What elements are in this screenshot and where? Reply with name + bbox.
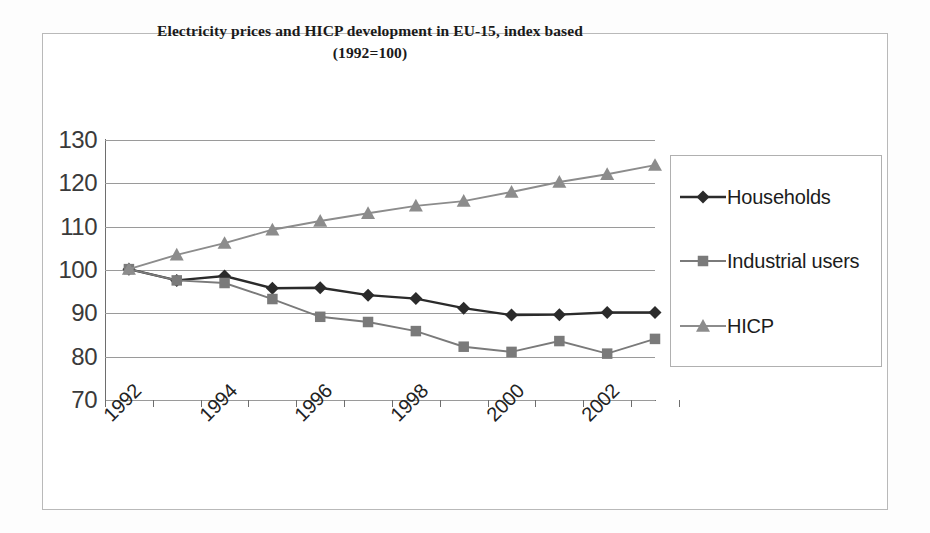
gridline bbox=[105, 400, 655, 401]
legend-item-hicp[interactable]: HICP bbox=[679, 311, 774, 341]
square-marker-icon bbox=[315, 312, 326, 323]
square-marker-icon bbox=[554, 336, 565, 347]
x-tick bbox=[248, 400, 249, 407]
diamond-marker-icon bbox=[697, 191, 710, 204]
diamond-marker-icon bbox=[457, 302, 470, 315]
chart-title-line-1: Electricity prices and HICP development … bbox=[157, 22, 583, 39]
x-tick bbox=[631, 400, 632, 407]
series-line bbox=[129, 269, 655, 315]
y-tick-label: 110 bbox=[37, 213, 97, 241]
series-line bbox=[129, 269, 655, 354]
square-marker-icon bbox=[650, 334, 661, 345]
chart-title: Electricity prices and HICP development … bbox=[60, 20, 680, 64]
y-tick-label: 90 bbox=[37, 299, 97, 327]
legend-item-industrial-users[interactable]: Industrial users bbox=[679, 246, 859, 276]
square-marker-icon bbox=[411, 326, 422, 337]
square-marker-icon bbox=[267, 294, 278, 305]
chart-legend: Households Industrial users HICP bbox=[670, 155, 882, 367]
square-marker-icon bbox=[698, 256, 709, 267]
diamond-marker-icon bbox=[553, 308, 566, 321]
x-tick bbox=[344, 400, 345, 407]
chart-title-line-2: (1992=100) bbox=[60, 42, 680, 64]
series-layer bbox=[105, 140, 655, 400]
diamond-marker-icon bbox=[601, 306, 614, 319]
diamond-marker-icon bbox=[266, 282, 279, 295]
square-marker-icon bbox=[602, 348, 613, 359]
x-tick bbox=[440, 400, 441, 407]
y-tick-label: 70 bbox=[37, 386, 97, 414]
y-axis-labels: 130120110100908070 bbox=[35, 0, 97, 533]
square-marker-icon bbox=[171, 275, 182, 286]
diamond-marker-icon bbox=[409, 292, 422, 305]
y-tick-label: 130 bbox=[37, 126, 97, 154]
y-tick-label: 80 bbox=[37, 343, 97, 371]
legend-label: Industrial users bbox=[727, 250, 859, 273]
diamond-marker-icon bbox=[314, 281, 327, 294]
diamond-marker-icon bbox=[505, 309, 518, 322]
legend-label: Households bbox=[727, 186, 831, 209]
x-tick bbox=[535, 400, 536, 407]
diamond-marker-icon bbox=[362, 289, 375, 302]
square-marker-icon bbox=[219, 278, 230, 289]
series-households bbox=[122, 263, 661, 322]
x-tick bbox=[153, 400, 154, 407]
y-tick-label: 100 bbox=[37, 256, 97, 284]
series-hicp bbox=[122, 158, 662, 275]
series-line bbox=[129, 165, 655, 269]
square-marker-icon bbox=[363, 317, 374, 328]
legend-label: HICP bbox=[727, 315, 774, 338]
square-marker-icon bbox=[679, 250, 727, 272]
legend-item-households[interactable]: Households bbox=[679, 182, 831, 212]
square-marker-icon bbox=[506, 347, 517, 358]
plot-area bbox=[105, 140, 655, 400]
square-marker-icon bbox=[458, 341, 469, 352]
y-tick-label: 120 bbox=[37, 169, 97, 197]
diamond-marker-icon bbox=[679, 186, 727, 208]
x-tick bbox=[679, 400, 680, 407]
chart-page: Electricity prices and HICP development … bbox=[0, 0, 930, 533]
triangle-marker-icon bbox=[679, 315, 727, 337]
